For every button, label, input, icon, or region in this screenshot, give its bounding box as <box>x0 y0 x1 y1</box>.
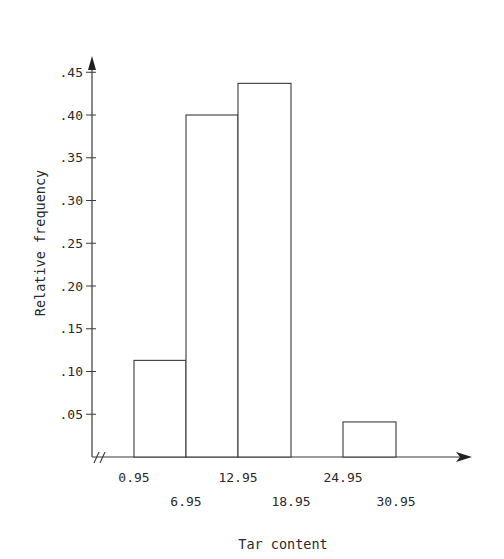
y-tick-label: .30 <box>60 193 83 208</box>
y-tick-label: .15 <box>60 321 83 336</box>
y-tick-label: .05 <box>60 407 83 422</box>
y-tick-label: .35 <box>60 150 83 165</box>
x-tick-label: 6.95 <box>170 494 201 509</box>
y-tick-labels: .05.10.15.20.25.30.35.40.45 <box>60 65 83 422</box>
y-tick-label: .45 <box>60 65 83 80</box>
y-axis <box>86 56 96 457</box>
x-tick-label: 18.95 <box>271 494 310 509</box>
y-tick-label: .25 <box>60 236 83 251</box>
histogram-chart: .05.10.15.20.25.30.35.40.45 0.956.9512.9… <box>0 0 504 559</box>
x-axis-title: Tar content <box>238 536 327 552</box>
x-tick-label: 12.95 <box>218 470 257 485</box>
y-tick-label: .40 <box>60 108 83 123</box>
x-tick-label: 24.95 <box>323 470 362 485</box>
x-tick-label: 30.95 <box>376 494 415 509</box>
y-axis-title: Relative frequency <box>32 170 48 316</box>
y-tick-label: .10 <box>60 364 83 379</box>
y-axis-arrow-icon <box>88 56 96 70</box>
histogram-bar <box>134 360 186 457</box>
histogram-bars <box>134 83 396 457</box>
histogram-bar <box>343 422 396 457</box>
x-tick-labels: 0.956.9512.9518.9524.9530.95 <box>118 470 415 509</box>
x-tick-label: 0.95 <box>118 470 149 485</box>
histogram-bar <box>186 115 238 457</box>
histogram-bar <box>238 83 291 457</box>
y-tick-label: .20 <box>60 279 83 294</box>
